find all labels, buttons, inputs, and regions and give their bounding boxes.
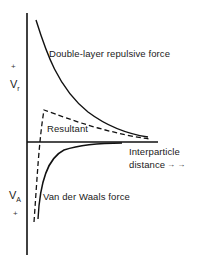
diagram-canvas (0, 0, 201, 264)
double-layer-repulsive-curve (36, 20, 148, 137)
x-axis-label-line2: distance (129, 159, 165, 170)
y-upper-label: Vr (10, 78, 20, 92)
resultant-label: Resultant (47, 123, 88, 134)
y-lower-plus-sign: + (13, 209, 18, 218)
y-upper-plus-sign: + (11, 62, 16, 71)
y-upper-label-sub: r (17, 85, 19, 92)
double-layer-repulsive-label: Double-layer repulsive force (49, 48, 170, 59)
x-axis-label-line1: Interparticle (129, 146, 180, 157)
y-lower-label: VA (9, 189, 21, 203)
van-der-waals-curve (38, 143, 122, 219)
y-lower-label-sub: A (16, 196, 21, 203)
x-axis-arrow-icon: → → (167, 160, 185, 169)
van-der-waals-label: Van der Waals force (43, 191, 130, 202)
